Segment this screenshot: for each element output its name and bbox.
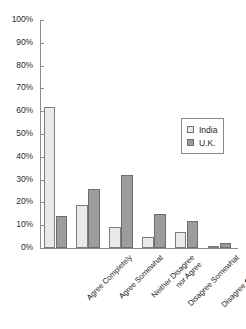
y-axis-tick-label: 20% [16,196,33,206]
legend-swatch-icon-uk [187,139,194,146]
bar-uk [88,189,100,248]
bar-chart: 0%10%20%30%40%50%60%70%80%90%100% Agree … [0,0,246,329]
bar-india [76,205,88,248]
bar-uk [220,243,232,248]
bar-group [41,20,74,248]
y-axis-tick-label: 100% [12,14,33,24]
y-axis-tick-label: 90% [16,37,33,47]
bar-uk [187,221,199,248]
bar-uk [56,216,68,248]
y-axis-tick-label: 0% [21,242,33,252]
bar-india [44,107,56,248]
y-axis-tick-label: 50% [16,128,33,138]
bar-group [140,20,173,248]
bar-india [109,227,121,248]
y-axis-tick-label: 70% [16,82,33,92]
legend: India U.K. [181,118,224,154]
y-axis-tick-label: 60% [16,105,33,115]
bar-group [74,20,107,248]
y-axis-tick-label: 10% [16,219,33,229]
bar-india [175,232,187,248]
y-axis-tick-label: 80% [16,60,33,70]
legend-label-india: India [199,125,217,135]
bar-group [107,20,140,248]
bar-india [208,246,220,248]
bar-uk [121,175,133,248]
legend-item-uk: U.K. [187,136,217,149]
legend-label-uk: U.K. [199,138,216,148]
bar-india [142,237,154,248]
legend-item-india: India [187,123,217,136]
y-axis-tick-label: 40% [16,151,33,161]
legend-swatch-icon-india [187,126,194,133]
x-axis-line [40,248,238,249]
bar-uk [154,214,166,248]
y-axis-tick-label: 30% [16,174,33,184]
y-axis-tick-mark [40,248,44,249]
